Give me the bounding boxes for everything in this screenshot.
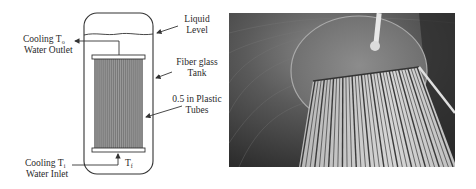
tube-bundle-photo — [229, 13, 455, 167]
outlet-pipe — [75, 41, 119, 55]
liquid-level-arrow — [157, 26, 178, 33]
feed-temp-label: Tf — [125, 158, 133, 172]
tank-label: Fiber glass Tank — [170, 57, 224, 79]
outlet-temp: To — [56, 34, 65, 44]
liquid-level-label: Liquid Level — [179, 14, 215, 36]
tube-bundle — [92, 55, 145, 152]
outlet-label-line2: Water Outlet — [24, 45, 73, 56]
inlet-label-line2: Water Inlet — [26, 169, 68, 180]
liquid-level-line — [84, 33, 153, 35]
inlet-temp: Ti — [58, 158, 65, 168]
top-header — [92, 55, 145, 59]
bottom-header — [92, 148, 145, 152]
tubes-label: 0.5 in Plastic Tubes — [165, 94, 229, 116]
inlet-pipe — [72, 154, 118, 165]
